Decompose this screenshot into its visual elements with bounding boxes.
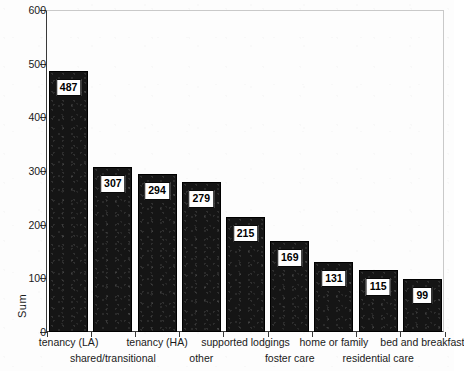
bar-value-label: 99 bbox=[413, 287, 433, 305]
x-axis-label: home or family bbox=[300, 336, 369, 348]
bar[interactable]: 169 bbox=[270, 241, 309, 332]
bar-value-label: 307 bbox=[100, 175, 126, 193]
y-axis: 6005004003002001000 bbox=[0, 0, 46, 371]
bar[interactable]: 115 bbox=[359, 270, 398, 332]
bar-value-label: 215 bbox=[233, 225, 259, 243]
y-tick-label-300: 300 bbox=[10, 165, 46, 177]
x-axis-label: foster care bbox=[265, 352, 315, 364]
y-tick-label-100: 100 bbox=[10, 272, 46, 284]
x-axis-label: tenancy (LA) bbox=[39, 336, 99, 348]
x-axis-label: bed and breakfast bbox=[380, 336, 464, 348]
bar[interactable]: 279 bbox=[182, 182, 221, 332]
bar-value-label: 169 bbox=[277, 249, 303, 267]
bar[interactable]: 215 bbox=[226, 217, 265, 332]
x-axis-label: tenancy (HA) bbox=[126, 336, 187, 348]
y-tick-label-400: 400 bbox=[10, 111, 46, 123]
bar-value-label: 487 bbox=[56, 79, 82, 97]
bar[interactable]: 294 bbox=[138, 174, 177, 332]
bar-value-label: 294 bbox=[144, 182, 170, 200]
x-axis-label: shared/transitional bbox=[70, 352, 156, 364]
bar-value-label: 131 bbox=[321, 270, 347, 288]
x-axis-label: supported lodgings bbox=[201, 336, 290, 348]
bar[interactable]: 307 bbox=[93, 167, 132, 332]
x-axis-label: residential care bbox=[343, 352, 414, 364]
x-axis-label: other bbox=[189, 352, 213, 364]
bar-value-label: 279 bbox=[189, 190, 215, 208]
x-axis-labels: tenancy (LA)shared/transitionaltenancy (… bbox=[46, 336, 444, 370]
bar[interactable]: 487 bbox=[49, 71, 88, 332]
bars-group: 48730729427921516913111599 bbox=[46, 10, 444, 332]
bar[interactable]: 99 bbox=[403, 279, 442, 332]
y-tick-label-600: 600 bbox=[10, 4, 46, 16]
bar[interactable]: 131 bbox=[314, 262, 353, 332]
y-tick-label-500: 500 bbox=[10, 58, 46, 70]
bar-value-label: 115 bbox=[366, 278, 391, 296]
y-tick-label-200: 200 bbox=[10, 219, 46, 231]
